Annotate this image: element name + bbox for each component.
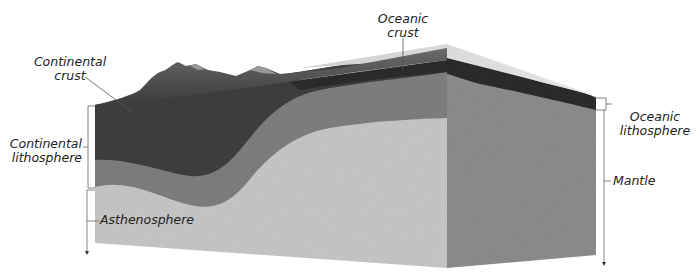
down-arrow-icon [602, 262, 606, 266]
label-oceanic-crust: Oceanic crust [370, 12, 436, 40]
down-arrow-icon [85, 251, 89, 255]
diagram-canvas: Continental crust Oceanic crust Continen… [0, 0, 700, 277]
label-line: lithosphere [612, 124, 698, 138]
label-line: lithosphere [2, 151, 82, 165]
label-line: Oceanic [612, 110, 698, 124]
label-line: Continental [30, 55, 110, 69]
label-line: crust [370, 26, 436, 40]
continental-lithosphere-bracket [88, 106, 95, 188]
oceanic-lithosphere-bracket [596, 98, 606, 110]
label-line: crust [30, 69, 110, 83]
block-diagram [0, 0, 700, 277]
label-continental-lithosphere: Continental lithosphere [2, 137, 82, 165]
label-line: Oceanic [370, 12, 436, 26]
label-continental-crust: Continental crust [30, 55, 110, 83]
label-asthenosphere: Asthenosphere [100, 213, 194, 227]
label-mantle: Mantle [613, 174, 655, 188]
label-line: Continental [2, 137, 82, 151]
label-oceanic-lithosphere: Oceanic lithosphere [612, 110, 698, 138]
